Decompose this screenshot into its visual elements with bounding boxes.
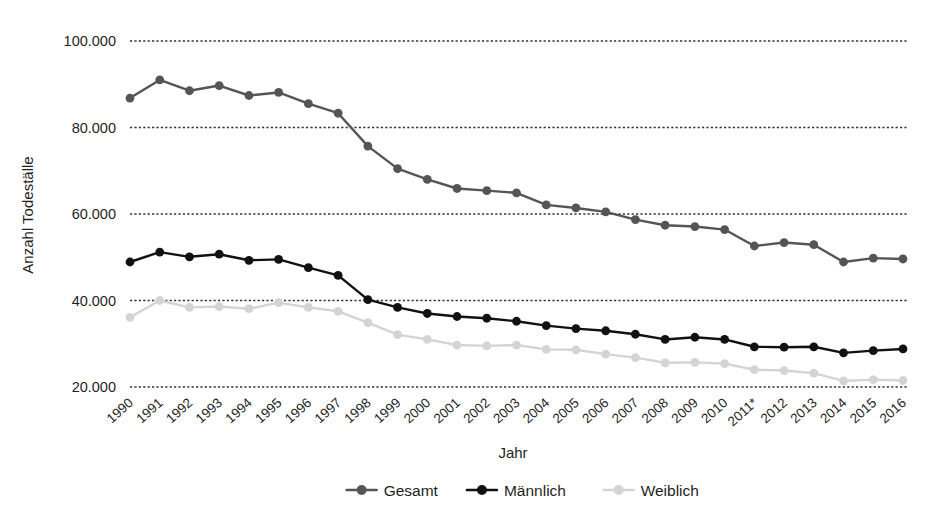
data-point xyxy=(542,201,551,210)
data-point xyxy=(869,375,878,384)
data-point xyxy=(780,238,789,247)
legend-marker-icon xyxy=(614,485,624,495)
data-point xyxy=(155,296,164,305)
y-tick-label: 20.000 xyxy=(72,379,116,395)
data-point xyxy=(839,258,848,267)
legend-marker-icon xyxy=(357,485,367,495)
data-point xyxy=(839,377,848,386)
data-point xyxy=(750,365,759,374)
data-point xyxy=(423,309,432,318)
data-point xyxy=(482,342,491,351)
chart-legend: GesamtMännlichWeiblich xyxy=(347,482,699,499)
data-point xyxy=(720,359,729,368)
data-point xyxy=(899,345,908,354)
data-point xyxy=(215,250,224,259)
data-point xyxy=(512,188,521,197)
data-point xyxy=(482,314,491,323)
data-point xyxy=(363,295,372,304)
y-tick-label: 40.000 xyxy=(72,293,116,309)
data-point xyxy=(720,335,729,344)
data-point xyxy=(809,240,818,249)
data-point xyxy=(126,94,135,103)
data-point xyxy=(780,366,789,375)
data-point xyxy=(304,99,313,108)
data-point xyxy=(304,303,313,312)
data-point xyxy=(245,91,254,100)
data-point xyxy=(542,321,551,330)
data-point xyxy=(661,358,670,367)
data-point xyxy=(363,142,372,151)
data-point xyxy=(363,318,372,327)
data-point xyxy=(215,302,224,311)
data-point xyxy=(869,346,878,355)
data-point xyxy=(155,248,164,257)
chart-canvas: 20.00040.00060.00080.000100.000 19901991… xyxy=(0,0,927,525)
data-point xyxy=(542,345,551,354)
data-point xyxy=(601,326,610,335)
legend-label: Männlich xyxy=(504,482,566,499)
data-point xyxy=(274,88,283,97)
data-point xyxy=(453,184,462,193)
data-point xyxy=(423,175,432,184)
y-tick-label: 80.000 xyxy=(72,120,116,136)
data-point xyxy=(572,324,581,333)
data-point xyxy=(601,207,610,216)
data-point xyxy=(690,222,699,231)
data-point xyxy=(334,109,343,118)
data-point xyxy=(512,317,521,326)
data-point xyxy=(869,254,878,263)
data-point xyxy=(690,333,699,342)
data-point xyxy=(661,221,670,230)
line-chart: 20.00040.00060.00080.000100.000 19901991… xyxy=(0,0,927,525)
data-point xyxy=(393,330,402,339)
data-point xyxy=(334,307,343,316)
data-point xyxy=(572,345,581,354)
data-point xyxy=(453,312,462,321)
data-point xyxy=(215,81,224,90)
data-point xyxy=(780,343,789,352)
data-point xyxy=(423,335,432,344)
data-point xyxy=(809,342,818,351)
legend-label: Weiblich xyxy=(641,482,699,499)
data-point xyxy=(631,215,640,224)
data-point xyxy=(185,86,194,95)
data-point xyxy=(334,271,343,280)
legend-marker-icon xyxy=(477,485,487,495)
data-point xyxy=(720,225,729,234)
data-point xyxy=(750,242,759,251)
data-point xyxy=(601,350,610,359)
data-point xyxy=(393,303,402,312)
data-point xyxy=(899,376,908,385)
data-point xyxy=(274,255,283,264)
data-point xyxy=(245,304,254,313)
data-point xyxy=(572,204,581,213)
data-point xyxy=(155,76,164,85)
data-point xyxy=(274,298,283,307)
y-axis-title: Anzahl Todeställe xyxy=(19,156,36,273)
data-point xyxy=(482,186,491,195)
data-point xyxy=(839,348,848,357)
data-point xyxy=(393,164,402,173)
chart-background xyxy=(0,0,927,525)
x-axis-title: Jahr xyxy=(498,444,527,461)
data-point xyxy=(185,252,194,261)
data-point xyxy=(245,256,254,265)
data-point xyxy=(512,341,521,350)
y-tick-label: 100.000 xyxy=(64,33,116,49)
data-point xyxy=(690,358,699,367)
data-point xyxy=(750,342,759,351)
data-point xyxy=(631,330,640,339)
legend-label: Gesamt xyxy=(384,482,439,499)
data-point xyxy=(126,313,135,322)
data-point xyxy=(304,263,313,272)
y-tick-label: 60.000 xyxy=(72,206,116,222)
data-point xyxy=(126,258,135,267)
data-point xyxy=(453,341,462,350)
data-point xyxy=(661,335,670,344)
data-point xyxy=(185,303,194,312)
data-point xyxy=(809,369,818,378)
data-point xyxy=(899,255,908,264)
data-point xyxy=(631,353,640,362)
